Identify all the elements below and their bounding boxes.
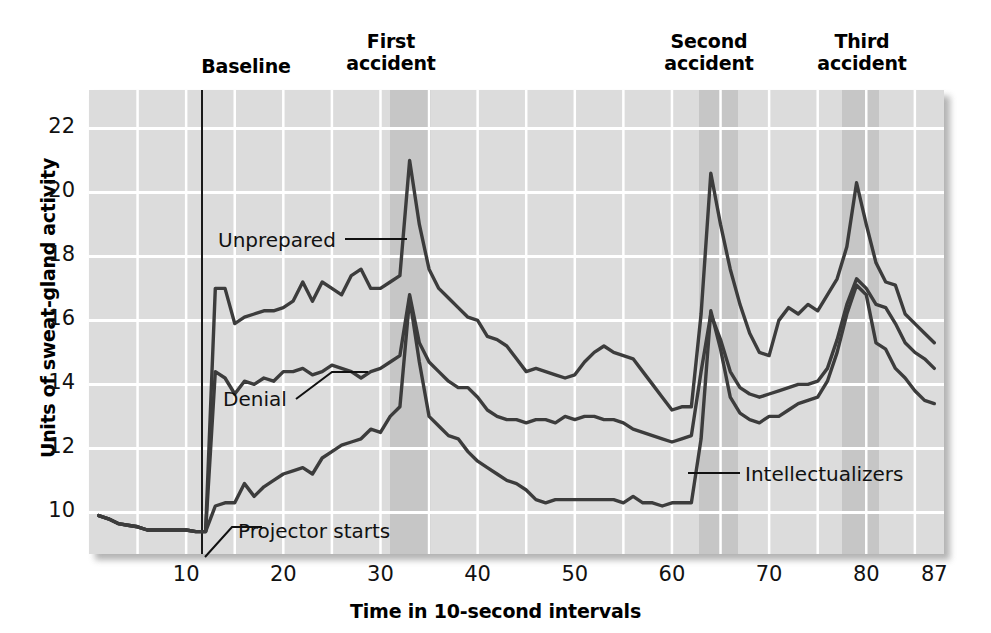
y-tick-label: 10	[15, 498, 75, 522]
y-tick-label: 22	[15, 114, 75, 138]
annotation-unprepared: Unprepared	[218, 228, 336, 252]
leader-line-projector-starts	[201, 523, 268, 563]
annotation-denial: Denial	[223, 387, 287, 411]
leader-line-denial	[292, 368, 374, 405]
y-tick-label: 20	[15, 178, 75, 202]
section-label-first-accident: First accident	[301, 30, 481, 74]
leader-line-unprepared	[345, 238, 407, 240]
x-tick-label: 60	[642, 562, 702, 586]
x-tick-label: 87	[904, 562, 964, 586]
y-tick-label: 16	[15, 306, 75, 330]
y-tick-label: 12	[15, 434, 75, 458]
section-label-third-accident: Third accident	[772, 30, 952, 74]
leader-line-intellectualizers	[688, 472, 740, 474]
x-tick-label: 50	[545, 562, 605, 586]
annotation-intellectualizers: Intellectualizers	[745, 462, 903, 486]
x-tick-label: 70	[739, 562, 799, 586]
y-tick-label: 18	[15, 242, 75, 266]
x-axis-title: Time in 10-second intervals	[0, 600, 991, 622]
figure-root: BaselineFirst accidentSecond accidentThi…	[0, 0, 991, 633]
x-tick-label: 40	[448, 562, 508, 586]
x-tick-label: 10	[156, 562, 216, 586]
x-tick-label: 80	[836, 562, 896, 586]
y-tick-label: 14	[15, 370, 75, 394]
x-tick-label: 20	[253, 562, 313, 586]
x-tick-label: 30	[350, 562, 410, 586]
